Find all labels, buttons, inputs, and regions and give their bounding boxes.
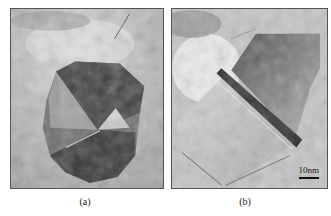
scale-bar: 10nm xyxy=(298,165,319,179)
micrograph-panel-a xyxy=(10,8,164,189)
scale-bar-line xyxy=(299,177,319,179)
micrograph-b-image xyxy=(172,9,327,188)
micrograph-a-image xyxy=(11,9,163,188)
panel-b-caption: (b) xyxy=(230,196,260,207)
panel-a-caption: (a) xyxy=(70,196,100,207)
scale-bar-label: 10nm xyxy=(298,165,319,175)
micrograph-panel-b: 10nm xyxy=(171,8,328,189)
